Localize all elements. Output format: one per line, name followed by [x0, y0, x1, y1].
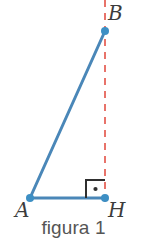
vertex-label-H: H [108, 200, 125, 220]
right-angle-dot-icon [93, 187, 97, 191]
vertex-point-B [101, 27, 109, 35]
segment-AB [30, 31, 105, 198]
figure-container: B A H figura 1 [0, 0, 147, 251]
vertex-label-B: B [108, 3, 123, 23]
vertex-label-A: A [15, 200, 29, 220]
figure-caption: figura 1 [0, 218, 147, 239]
